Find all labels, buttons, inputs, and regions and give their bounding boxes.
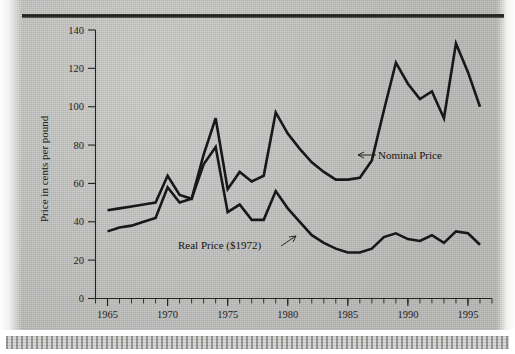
scanned-chart-page: 020406080100120140 196519701975198019851… bbox=[0, 0, 515, 354]
svg-text:100: 100 bbox=[68, 101, 84, 112]
y-axis-ticks bbox=[88, 30, 96, 299]
y-axis-title: Price in cents per pound bbox=[38, 115, 50, 222]
x-axis-tick-labels: 1965197019751980198519901995 bbox=[97, 309, 478, 320]
svg-text:20: 20 bbox=[74, 255, 85, 266]
line-chart: 020406080100120140 196519701975198019851… bbox=[0, 0, 515, 354]
svg-text:1970: 1970 bbox=[157, 309, 178, 320]
x-axis-minor-ticks bbox=[96, 299, 493, 304]
svg-text:1975: 1975 bbox=[217, 309, 238, 320]
svg-text:1995: 1995 bbox=[457, 309, 478, 320]
svg-text:140: 140 bbox=[68, 25, 84, 36]
real-price-arrow bbox=[281, 236, 296, 246]
y-axis-tick-labels: 020406080100120140 bbox=[68, 25, 84, 305]
svg-text:1990: 1990 bbox=[397, 309, 418, 320]
series-line-nominal-price bbox=[108, 43, 480, 210]
svg-text:80: 80 bbox=[74, 140, 85, 151]
svg-text:40: 40 bbox=[74, 216, 85, 227]
svg-text:1965: 1965 bbox=[97, 309, 118, 320]
svg-text:1985: 1985 bbox=[337, 309, 358, 320]
x-axis-major-ticks bbox=[108, 299, 468, 307]
nominal-price-label: Nominal Price bbox=[378, 149, 442, 161]
svg-text:1980: 1980 bbox=[277, 309, 298, 320]
svg-text:60: 60 bbox=[74, 178, 85, 189]
svg-text:120: 120 bbox=[68, 63, 84, 74]
real-price-label: Real Price ($1972) bbox=[178, 239, 261, 252]
svg-text:0: 0 bbox=[79, 293, 84, 304]
